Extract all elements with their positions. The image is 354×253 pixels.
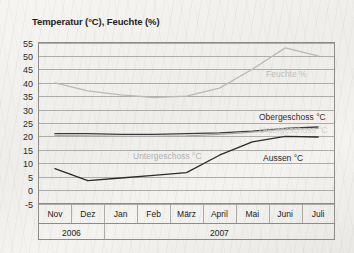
x-axis-month-label: März	[177, 209, 196, 219]
x-axis-month-label: Dez	[80, 209, 95, 219]
series-label: Untergeschoss °C	[259, 125, 328, 135]
y-axis-tick: 50	[23, 52, 33, 62]
y-axis-tick: 20	[23, 132, 33, 142]
y-axis-tick: 35	[23, 92, 33, 102]
line-chart-plot: 5550454035302520151050-5 Feuchte %Oberge…	[0, 0, 354, 253]
y-axis-tick: 15	[23, 146, 33, 156]
y-axis-tick-labels: 5550454035302520151050-5	[23, 39, 33, 210]
y-axis-tick: 40	[23, 79, 33, 89]
series-label: Untergeschoss °C	[133, 151, 202, 161]
x-axis-month-label: April	[211, 209, 228, 219]
series-label: Obergeschoss °C	[259, 112, 326, 122]
x-axis-year-label: 2006	[62, 228, 81, 238]
x-axis-year-label: 2007	[210, 228, 229, 238]
x-axis-month-label: Mai	[245, 209, 259, 219]
series-label: Feuchte %	[266, 69, 307, 79]
chart-container: Temperatur (°C), Feuchte (%) 55504540353…	[0, 0, 354, 253]
x-axis-month-label: Juni	[277, 209, 293, 219]
x-axis-month-label: Jan	[114, 209, 128, 219]
y-axis-tick: 10	[23, 159, 33, 169]
x-axis-month-row: NovDezJanFebMärzAprilMaiJuniJuli	[39, 204, 335, 224]
x-axis-year-row: 20062007	[39, 224, 335, 240]
y-axis-tick: 5	[28, 173, 33, 183]
y-axis-tick: 0	[28, 186, 33, 196]
year-row-frame	[39, 224, 335, 240]
y-axis-tick: 30	[23, 106, 33, 116]
y-axis-tick: -5	[25, 200, 33, 210]
x-axis-month-label: Feb	[146, 209, 161, 219]
y-axis-tick: 55	[23, 39, 33, 49]
x-axis-month-label: Juli	[312, 209, 325, 219]
y-axis-tick: 25	[23, 119, 33, 129]
x-axis-month-label: Nov	[47, 209, 63, 219]
series-label: Aussen °C	[263, 153, 303, 163]
y-axis-tick: 45	[23, 65, 33, 75]
grid-lines	[39, 44, 335, 205]
